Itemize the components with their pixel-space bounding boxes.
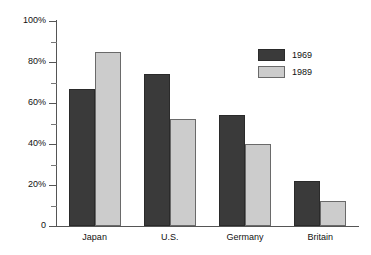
bar-japan-1989	[95, 52, 121, 226]
legend-label-1989: 1989	[292, 67, 312, 77]
y-tick-major	[49, 226, 57, 227]
bar-japan-1969	[69, 89, 95, 226]
y-tick-label: 0	[0, 221, 46, 230]
x-category-label-britain: Britain	[283, 232, 358, 243]
y-tick-label: 20%	[0, 180, 46, 189]
bar-britain-1989	[320, 201, 346, 226]
y-tick-major	[49, 62, 57, 63]
bar-germany-1989	[245, 144, 271, 226]
x-category-label-japan: Japan	[57, 232, 132, 243]
bar-germany-1969	[219, 115, 245, 226]
y-tick-label: 40%	[0, 139, 46, 148]
legend-item-1989: 1989	[258, 65, 312, 78]
y-tick-major	[49, 21, 57, 22]
bar-britain-1969	[294, 181, 320, 226]
x-category-label-germany: Germany	[208, 232, 283, 243]
y-tick-major	[49, 144, 57, 145]
legend-item-1969: 1969	[258, 48, 312, 61]
y-tick-major	[49, 103, 57, 104]
y-tick-major	[49, 185, 57, 186]
legend-label-1969: 1969	[292, 50, 312, 60]
plot-area	[57, 21, 358, 226]
chart-legend: 19691989	[258, 48, 312, 82]
x-axis-line	[56, 226, 359, 227]
legend-swatch-1969	[258, 49, 285, 61]
y-tick-label: 60%	[0, 98, 46, 107]
x-category-label-us: U.S.	[132, 232, 207, 243]
bar-us-1969	[144, 74, 170, 226]
bar-chart: 100%80%60%40%20%0 JapanU.S.GermanyBritai…	[0, 0, 371, 255]
y-tick-label: 80%	[0, 57, 46, 66]
y-tick-label: 100%	[0, 16, 46, 25]
bar-us-1989	[170, 119, 196, 226]
legend-swatch-1989	[258, 66, 285, 78]
